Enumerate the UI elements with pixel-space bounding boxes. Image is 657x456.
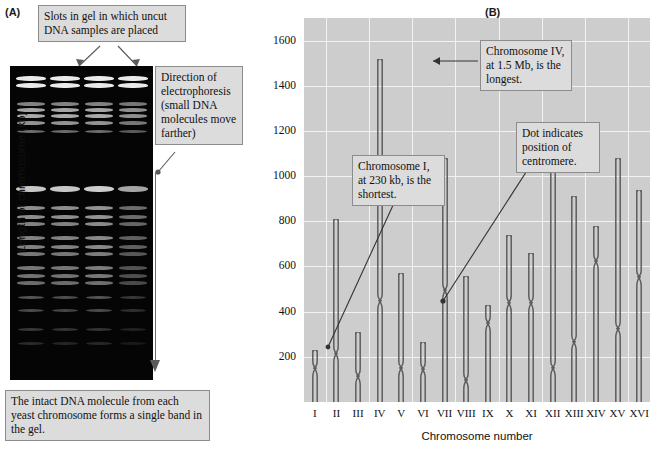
gridline-vertical xyxy=(628,18,629,402)
chromosome-glyph xyxy=(525,253,537,402)
chromosome-bar[interactable] xyxy=(633,190,645,402)
y-axis-tick-label: 600 xyxy=(262,259,296,271)
chromosome-bar[interactable] xyxy=(590,226,602,402)
panel-a-letter: (A) xyxy=(5,6,20,18)
gridline-vertical xyxy=(585,18,586,402)
electrophoresis-direction-arrow-shaft xyxy=(155,172,156,364)
chart-plot-area: Chromosome I, at 230 kb, is the shortest… xyxy=(304,18,650,402)
chromosome-bar[interactable] xyxy=(460,276,472,402)
chromosome-bar[interactable] xyxy=(309,350,321,402)
slots-in-gel-callout: Slots in gel in which uncut DNA samples … xyxy=(38,5,186,42)
direction-of-electrophoresis-callout: Direction of electrophoresis (small DNA … xyxy=(155,66,243,145)
centromere-callout: Dot indicates position of centromere. xyxy=(516,122,600,173)
chromosome-glyph xyxy=(590,226,602,402)
gel-lane xyxy=(118,66,148,380)
chromosome-glyph xyxy=(568,196,580,402)
gridline-horizontal xyxy=(304,41,650,42)
chromosome-iv-callout: Chromosome IV, at 1.5 Mb, is the longest… xyxy=(480,40,572,91)
chromosome-bar[interactable] xyxy=(568,196,580,402)
gridline-vertical xyxy=(326,18,327,402)
gel-lane xyxy=(84,66,114,380)
intact-dna-molecule-callout: The intact DNA molecule from each yeast … xyxy=(5,390,210,441)
x-axis-tick-label: XVI xyxy=(624,407,654,419)
gridline-horizontal xyxy=(304,86,650,87)
chromosome-i-callout: Chromosome I, at 230 kb, is the shortest… xyxy=(352,155,445,206)
chromosome-bar[interactable] xyxy=(547,160,559,402)
chromosome-glyph xyxy=(395,273,407,402)
y-axis-tick-label: 1200 xyxy=(262,124,296,136)
chromosome-glyph xyxy=(352,332,364,402)
chromosome-glyph xyxy=(503,235,515,402)
chromosome-bar[interactable] xyxy=(503,235,515,402)
gridline-vertical xyxy=(412,18,413,402)
panel-b-letter: (B) xyxy=(485,6,500,18)
gridline-vertical xyxy=(369,18,370,402)
chromosome-bar[interactable] xyxy=(525,253,537,402)
chromosome-bar[interactable] xyxy=(352,332,364,402)
chromosome-bar[interactable] xyxy=(482,305,494,402)
y-axis-tick-label: 200 xyxy=(262,350,296,362)
electrophoresis-direction-arrow-head xyxy=(150,360,160,372)
y-axis-label: Length of chromosome (kb) xyxy=(15,87,27,277)
y-axis-tick-label: 1000 xyxy=(262,169,296,181)
chromosome-glyph xyxy=(633,190,645,402)
chromosome-bar[interactable] xyxy=(330,219,342,402)
chromosome-bar[interactable] xyxy=(612,158,624,402)
chromosome-glyph xyxy=(309,350,321,402)
y-axis-tick-label: 1400 xyxy=(262,79,296,91)
chromosome-bar[interactable] xyxy=(395,273,407,402)
chromosome-glyph xyxy=(460,276,472,402)
y-axis-tick-label: 1600 xyxy=(262,34,296,46)
x-axis-label: Chromosome number xyxy=(304,430,650,442)
chromosome-bar[interactable] xyxy=(417,342,429,402)
panel-a-gel-figure: (A) Slots in gel in which uncut DNA samp… xyxy=(0,0,250,456)
chromosome-glyph xyxy=(612,158,624,402)
chromosome-glyph xyxy=(417,342,429,402)
gridline-vertical xyxy=(455,18,456,402)
gel-lane xyxy=(50,66,80,380)
electrophoresis-gel-image xyxy=(10,66,153,380)
chromosome-bar[interactable] xyxy=(374,59,386,402)
y-axis-tick-label: 800 xyxy=(262,214,296,226)
gridline-horizontal xyxy=(304,221,650,222)
chromosome-glyph xyxy=(330,219,342,402)
chromosome-glyph xyxy=(547,160,559,402)
chromosome-glyph xyxy=(482,305,494,402)
chromosome-glyph xyxy=(374,59,386,402)
y-axis-tick-label: 400 xyxy=(262,305,296,317)
